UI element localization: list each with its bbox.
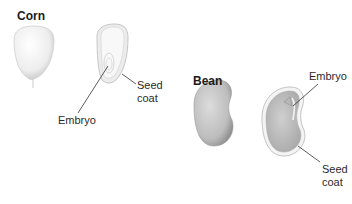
seed-diagram [0,0,352,204]
corn-whole-kernel [14,26,54,88]
corn-embryo-leader [78,66,108,113]
corn-cut-kernel [97,24,128,83]
bean-seed-coat-label-line2: coat [322,176,348,189]
bean-title: Bean [193,74,222,88]
bean-seed-coat-label: Seed coat [322,163,348,189]
corn-seed-coat-label-line2: coat [137,92,163,105]
corn-seed-coat-label-line1: Seed [137,79,163,92]
corn-embryo-label: Embryo [58,114,96,127]
corn-title: Corn [17,9,45,23]
bean-cut [262,87,305,156]
bean-embryo-label: Embryo [309,70,347,83]
bean-seed-coat-label-line1: Seed [322,163,348,176]
bean-seedcoat-leader [298,146,320,162]
corn-seedcoat-leader [122,74,136,84]
bean-whole [194,80,233,146]
corn-seed-coat-label: Seed coat [137,79,163,105]
